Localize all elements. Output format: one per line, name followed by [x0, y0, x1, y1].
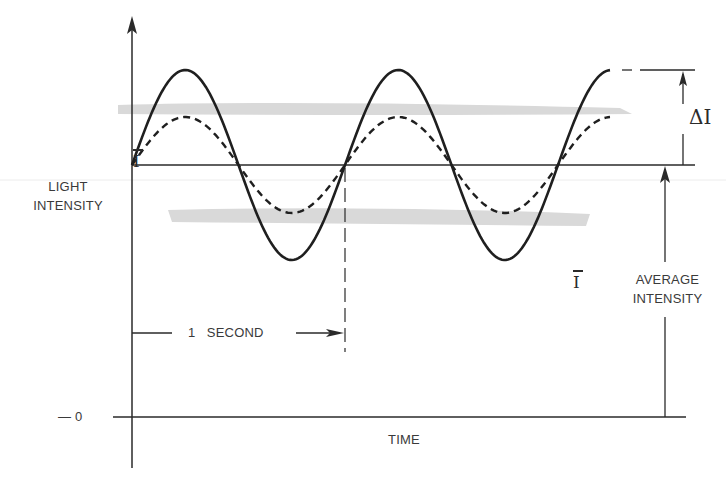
x-axis-label: TIME: [388, 432, 420, 448]
y-axis-label: LIGHT INTENSITY: [28, 179, 108, 214]
average-intensity-symbol: I: [573, 270, 583, 291]
zero-label: — 0: [58, 409, 82, 425]
gray-smudge-lower: [168, 208, 590, 226]
diagram-canvas: [0, 0, 726, 485]
period-label: 1 SECOND: [188, 325, 264, 341]
light-intensity-diagram: I LIGHT INTENSITY ΔI I AVERAGE INTENSITY…: [0, 0, 726, 485]
delta-intensity-label: ΔI: [689, 108, 711, 126]
mean-intensity-symbol: I: [133, 149, 143, 170]
average-intensity-label: AVERAGE INTENSITY: [625, 272, 710, 307]
gray-smudge-upper: [118, 103, 632, 115]
